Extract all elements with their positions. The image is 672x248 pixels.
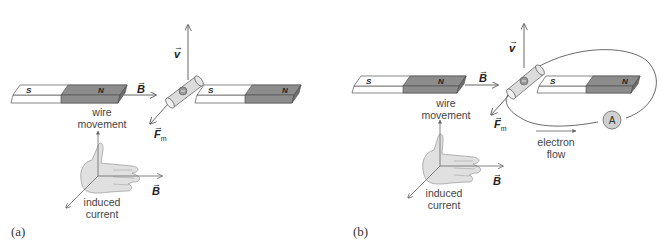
force-arrow	[150, 104, 168, 124]
right-hand-icon	[423, 134, 481, 184]
magnet-right: S N	[195, 85, 301, 103]
magnet-right: S N	[537, 76, 640, 93]
circuit-wire	[506, 95, 598, 126]
magnet-left: S N	[352, 76, 466, 93]
panel-a: S N S N	[0, 0, 336, 248]
induced-current-label: induced current	[416, 187, 472, 211]
pole-south-label: S	[208, 86, 214, 95]
wire-conductor	[505, 63, 546, 100]
wire-movement-label: wire movement	[418, 97, 474, 121]
force-vector-label: →Fm	[154, 128, 167, 142]
velocity-vector-label: →v	[174, 48, 180, 60]
pole-north-label: N	[98, 86, 104, 95]
svg-text:A: A	[609, 115, 616, 126]
pole-south-label: S	[26, 86, 32, 95]
wire-movement-label: wire movement	[74, 106, 130, 130]
pole-south-label: S	[366, 77, 372, 86]
field-vector-label: →B	[479, 72, 487, 84]
ammeter-icon: A	[603, 111, 621, 129]
pole-north-label: N	[622, 77, 628, 86]
hand-field-label: →B	[493, 175, 501, 187]
pole-north-label: N	[438, 77, 444, 86]
panel-label: (b)	[353, 224, 368, 240]
induced-current-label: induced current	[74, 196, 130, 220]
magnet-left: S N	[11, 85, 127, 103]
field-vector-label: →B	[137, 83, 145, 95]
panel-a-drawing: S N S N	[0, 0, 336, 248]
panel-b: A S N S N	[336, 0, 672, 248]
right-hand-icon	[81, 143, 140, 193]
pole-north-label: N	[282, 86, 288, 95]
force-vector-label: →Fm	[494, 118, 507, 132]
panel-label: (a)	[11, 224, 25, 240]
electron-flow-label: electron flow	[532, 136, 580, 160]
hand-field-label: →B	[152, 185, 160, 197]
pole-south-label: S	[550, 77, 556, 86]
velocity-vector-label: →v	[509, 42, 515, 54]
